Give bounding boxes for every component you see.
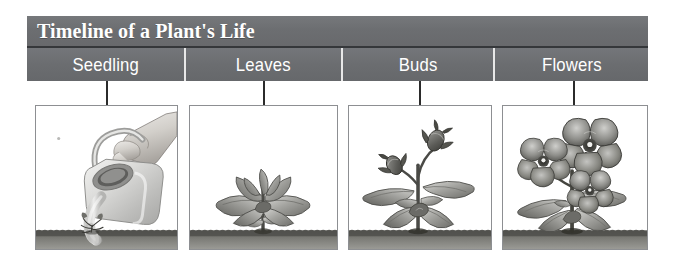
plant-with-open-flowers-illustration [503,106,647,249]
stage-label-buds: Buds [399,55,438,74]
stage-label-cell-seedling: Seedling [27,48,184,81]
stage-panel-leaves [189,105,338,250]
stage-label-cell-leaves: Leaves [184,48,341,81]
connector-stem-buds [419,81,421,105]
connector-stem-flowers [573,81,575,105]
stage-label-bar: Seedling Leaves Buds Flowers [27,48,648,81]
stage-label-seedling: Seedling [72,55,138,74]
stage-panel-seedling [35,105,178,250]
figure-title: Timeline of a Plant's Life [27,21,255,41]
stage-label-cell-flowers: Flowers [493,48,648,81]
connector-stem-seedling [106,81,108,105]
figure-title-bar: Timeline of a Plant's Life [27,16,648,46]
plant-with-leaves-illustration [190,106,337,249]
stage-panel-buds [348,105,492,250]
stage-label-leaves: Leaves [236,55,291,74]
stage-panel-flowers [502,105,648,250]
hand-watering-can-seedling-illustration [36,106,177,249]
stage-label-flowers: Flowers [542,55,602,74]
plant-with-buds-illustration [349,106,491,249]
stage-label-cell-buds: Buds [341,48,493,81]
plant-life-timeline-figure: Timeline of a Plant's Life Seedling Leav… [0,0,676,264]
connector-stem-leaves [263,81,265,105]
